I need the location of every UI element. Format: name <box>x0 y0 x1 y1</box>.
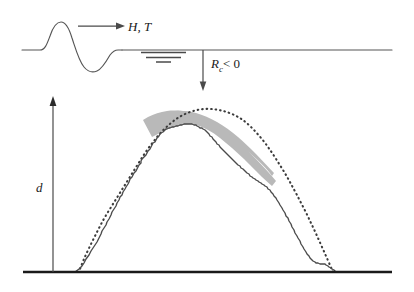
breakwater-cross-section-figure: H, T Rc< 0 d <box>0 0 414 292</box>
crest-freeboard-symbol: R <box>211 56 219 71</box>
crest-freeboard-label: Rc< 0 <box>211 57 240 74</box>
still-water-level-symbol <box>141 53 186 63</box>
crest-freeboard-arrow <box>200 50 207 91</box>
water-depth-label: d <box>36 181 43 194</box>
incident-wave-profile <box>22 22 122 72</box>
initial-structure-profile-dotted <box>79 109 333 272</box>
crest-freeboard-relation: < 0 <box>223 56 240 71</box>
eroded-crest-area-lower-correction <box>143 111 276 187</box>
diagram-canvas <box>0 0 414 292</box>
wave-direction-label: H, T <box>128 20 151 33</box>
water-depth-arrow <box>50 96 57 272</box>
wave-direction-arrow <box>78 23 125 30</box>
